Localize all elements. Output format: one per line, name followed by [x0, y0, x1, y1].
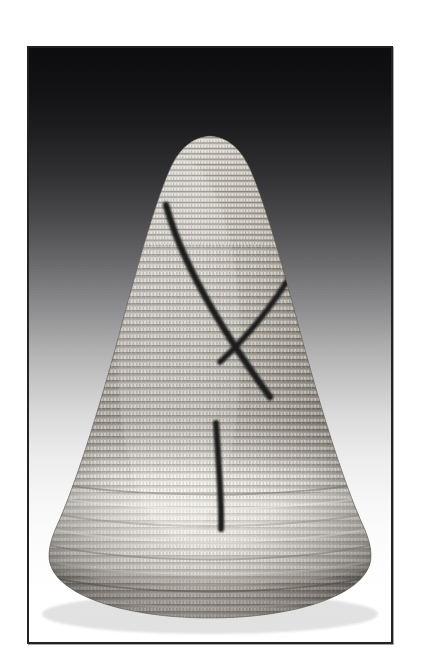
basketry-cone-object — [29, 48, 391, 642]
basketry-cone-drawing — [29, 48, 391, 642]
photo-border — [27, 46, 393, 644]
photograph — [29, 48, 391, 642]
photo-page — [0, 0, 421, 671]
cone-body — [29, 48, 391, 642]
